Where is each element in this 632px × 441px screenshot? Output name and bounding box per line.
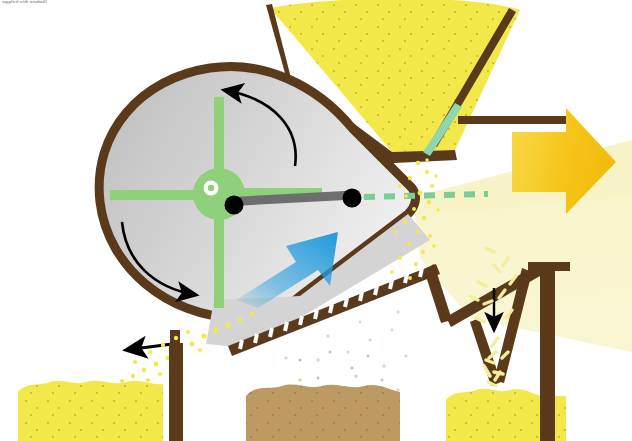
illustration-canvas: supplied with windmill: [0, 0, 632, 441]
support-leg-right-front: [540, 262, 555, 441]
pile-chaff-middle: [246, 384, 400, 441]
shaft-pin-near: [225, 196, 244, 215]
rotor-hub-bore-inner: [208, 185, 214, 191]
support-leg-left-front: [169, 343, 183, 441]
shaft-pin-far: [343, 189, 362, 208]
top-cross-bar: [458, 116, 568, 124]
winnowing-machine-illustration: [0, 0, 632, 441]
pile-clean-grain-left: [18, 381, 163, 441]
